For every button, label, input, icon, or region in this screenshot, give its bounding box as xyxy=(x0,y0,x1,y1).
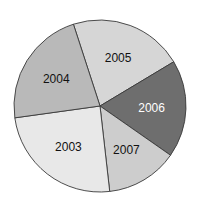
pie-label-2005: 2005 xyxy=(105,51,132,65)
pie-label-2003: 2003 xyxy=(55,140,82,154)
pie-label-2004: 2004 xyxy=(43,72,70,86)
pie-chart: 20052006200720032004 xyxy=(0,0,198,199)
pie-label-2007: 2007 xyxy=(113,143,140,157)
pie-label-2006: 2006 xyxy=(138,101,165,115)
